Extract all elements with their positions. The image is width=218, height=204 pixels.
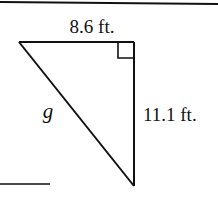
top-side-label: 8.6 ft.	[70, 16, 115, 37]
triangle-diagram: 8.6 ft. 11.1 ft. g	[0, 0, 218, 204]
top-rule-line	[0, 2, 218, 4]
hypotenuse-label: g	[43, 99, 54, 123]
right-angle-marker	[118, 42, 134, 58]
hypotenuse-side	[19, 42, 134, 186]
right-side-label: 11.1 ft.	[143, 104, 197, 125]
